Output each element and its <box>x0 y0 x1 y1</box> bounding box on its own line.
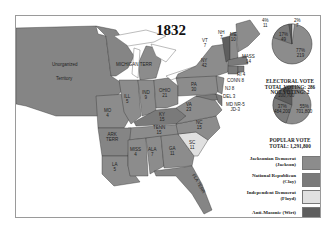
label-md: MD NR-5 JD-3 <box>226 102 245 112</box>
pv-clay-label: 37% 484,200 <box>274 104 290 114</box>
label-tenn: TENN 15 <box>153 125 165 135</box>
ev-clay-label: 17% 49 <box>279 32 288 42</box>
label-ga: GA 11 <box>169 146 176 156</box>
electoral-vote-pie <box>272 24 312 64</box>
label-va: VA 23 <box>186 102 192 112</box>
label-ark: ARK TERR <box>106 132 118 142</box>
region-miss <box>128 138 148 176</box>
label-territory: Territory <box>56 76 72 81</box>
label-nj: NJ 8 <box>225 86 234 91</box>
legend: Jacksonian Democrat (Jackson) National R… <box>211 155 321 218</box>
label-ri: RI 4 <box>237 72 245 77</box>
pv-wirt-label: 8% 100,700 <box>278 88 294 98</box>
label-pa: PA 30 <box>191 82 197 92</box>
label-conn: CONN 8 <box>227 78 244 83</box>
label-nc: NC 15 <box>196 120 203 130</box>
legend-swatch <box>302 190 321 204</box>
label-mass: MASS 14 <box>242 54 255 64</box>
legend-swatch <box>302 173 321 187</box>
map-title: 1832 <box>156 22 186 39</box>
pv-jackson-label: 55% 701,800 <box>296 104 312 114</box>
legend-item-jackson: Jacksonian Democrat (Jackson) <box>211 155 321 172</box>
label-vt: VT 7 <box>202 38 208 48</box>
label-mo: MO 4 <box>104 108 111 118</box>
label-me: ME 10 <box>230 32 237 42</box>
ev-jackson-label: 77% 219 <box>296 48 305 58</box>
label-miss: MISS 4 <box>130 147 141 157</box>
pv-total: TOTAL: 1,291,800 <box>259 144 321 150</box>
region-me <box>236 20 260 52</box>
label-la: LA 5 <box>112 162 118 172</box>
map-frame: 1832 Unorganized Territory MICHIGAN TERR… <box>15 15 321 218</box>
label-michigan-terr: MICHIGAN TERR <box>116 62 152 67</box>
label-ky: KY 15 <box>159 112 165 122</box>
label-ohio: OHIO 21 <box>159 88 171 98</box>
ev-floyd-label: 2% 7 <box>294 18 301 28</box>
label-unorganized: Unorganized <box>52 62 78 67</box>
popular-vote-caption: POPULAR VOTE TOTAL: 1,291,800 <box>259 138 321 149</box>
legend-item-clay: National Republican (Clay) <box>211 172 321 189</box>
label-del: DEL 3 <box>223 94 235 99</box>
label-ala: ALA 7 <box>148 147 157 157</box>
label-ind: IND 9 <box>142 90 150 100</box>
legend-swatch <box>302 156 321 170</box>
ev-wirt-label: 4% 11 <box>262 18 269 28</box>
label-ill: ILL 5 <box>124 94 130 104</box>
legend-swatch <box>302 207 321 218</box>
label-nh: NH 7 <box>218 30 225 40</box>
label-ny: NY 42 <box>201 58 207 68</box>
legend-item-wirt: Anti-Masonic (Wirt) <box>211 206 321 218</box>
legend-item-floyd: Independent Democrat (Floyd) <box>211 189 321 206</box>
label-sc: SC 11 <box>189 140 195 150</box>
